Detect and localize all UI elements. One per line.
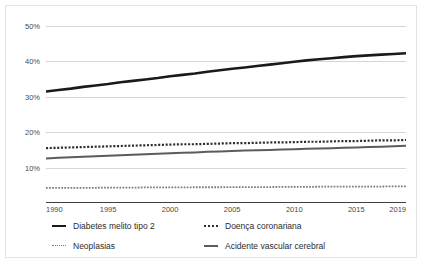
plot-area — [46, 26, 406, 203]
x-tick-label: 1990 — [46, 205, 63, 214]
legend-label: Acidente vascular cerebral — [225, 241, 325, 251]
y-axis-tick-labels: 10%20%30%40%50% — [6, 26, 42, 203]
x-axis-line — [46, 202, 406, 203]
y-tick-label: 30% — [6, 92, 40, 101]
chart-legend: Diabetes melito tipo 2Doença coronariana… — [52, 221, 382, 257]
x-axis-tick-labels: 1990199520002005201020152019 — [46, 205, 406, 219]
series-line — [46, 186, 406, 187]
legend-label: Doença coronariana — [225, 221, 302, 231]
chart-card: 10%20%30%40%50% 199019952000200520102015… — [5, 5, 417, 258]
legend-swatch-icon — [52, 241, 66, 251]
legend-item[interactable]: Neoplasias — [52, 241, 115, 251]
legend-label: Neoplasias — [73, 241, 115, 251]
x-tick-label: 2005 — [224, 205, 241, 214]
legend-swatch-icon — [204, 221, 218, 231]
legend-item[interactable]: Doença coronariana — [204, 221, 302, 231]
legend-item[interactable]: Acidente vascular cerebral — [204, 241, 325, 251]
legend-swatch-icon — [204, 241, 218, 251]
legend-swatch-icon — [52, 221, 66, 231]
series-line — [46, 53, 406, 91]
x-tick-label: 2015 — [348, 205, 365, 214]
y-tick-label: 50% — [6, 22, 40, 31]
series-layer — [46, 26, 406, 203]
legend-label: Diabetes melito tipo 2 — [73, 221, 155, 231]
y-tick-label: 10% — [6, 163, 40, 172]
y-tick-label: 20% — [6, 128, 40, 137]
x-tick-label: 1995 — [100, 205, 117, 214]
x-tick-label: 2010 — [286, 205, 303, 214]
x-tick-label: 2019 — [389, 205, 406, 214]
y-tick-label: 40% — [6, 57, 40, 66]
x-tick-label: 2000 — [162, 205, 179, 214]
legend-item[interactable]: Diabetes melito tipo 2 — [52, 221, 155, 231]
